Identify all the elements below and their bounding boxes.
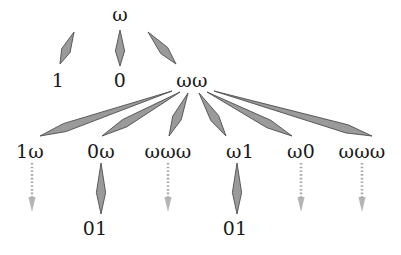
dotted-arrow [164, 163, 171, 212]
tree-node-c1: 1ω [16, 142, 44, 161]
edge-layer [0, 0, 401, 255]
solid-arrow [60, 32, 74, 64]
tree-node-c6: ωωω [338, 142, 385, 161]
tree-node-c5: ω0 [287, 142, 315, 161]
tree-node-c4: ω1 [226, 142, 254, 161]
tree-node-n0: 0 [114, 71, 126, 90]
tree-node-l2: 01 [223, 219, 248, 238]
solid-arrow [96, 163, 105, 214]
solid-arrow [115, 30, 124, 66]
tree-node-c2: 0ω [87, 142, 115, 161]
tree-node-n1: 1 [52, 71, 64, 90]
dotted-arrow [297, 163, 304, 212]
solid-arrow [148, 32, 176, 64]
solid-arrow [102, 92, 180, 136]
solid-arrow [232, 163, 241, 214]
dotted-arrow [28, 163, 35, 212]
solid-arrow [169, 93, 188, 136]
dotted-arrow [358, 163, 365, 212]
solid-arrow [40, 91, 172, 136]
derivation-tree-figure: ω10ωω1ω0ωωωωω1ω0ωωω0101 [0, 0, 401, 255]
tree-node-l1: 01 [83, 219, 108, 238]
tree-node-root: ω [112, 5, 128, 24]
tree-node-c3: ωωω [144, 142, 191, 161]
solid-arrow [214, 91, 372, 136]
tree-node-nww: ωω [176, 71, 207, 90]
